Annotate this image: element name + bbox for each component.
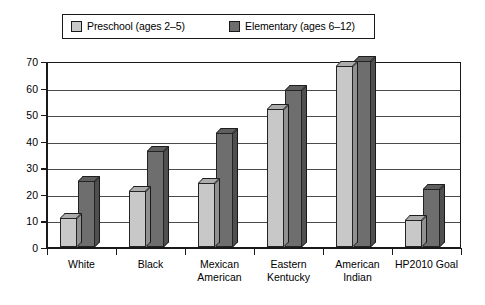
bar-face [198, 183, 215, 247]
x-axis-tick [185, 249, 186, 255]
x-axis-tick [461, 249, 462, 255]
bar-face [336, 66, 353, 247]
bar-2-1 [129, 191, 146, 247]
y-axis-tick [41, 195, 47, 196]
y-axis-tick [41, 221, 47, 222]
bar-side [302, 85, 307, 247]
legend-swatch-elementary-icon [229, 21, 240, 32]
y-axis-tick-label: 0 [12, 243, 38, 253]
bar-side [233, 128, 238, 247]
x-axis-tick [47, 249, 48, 255]
legend-swatch-preschool-icon [71, 21, 82, 32]
gridline [48, 196, 460, 197]
y-axis-tick [41, 115, 47, 116]
bar-5-1 [336, 66, 353, 247]
bar-1-1 [60, 218, 77, 247]
legend-entry-preschool: Preschool (ages 2–5) [71, 15, 185, 38]
bar-side [284, 104, 289, 247]
bar-face [405, 220, 422, 247]
bar-3-1 [198, 183, 215, 247]
gridline [48, 222, 460, 223]
chart-legend: Preschool (ages 2–5) Elementary (ages 6–… [62, 14, 375, 39]
y-axis-tick-label: 10 [12, 216, 38, 226]
y-axis-tick-label: 30 [12, 163, 38, 173]
bar-face [267, 109, 284, 247]
gridline [48, 116, 460, 117]
x-axis-tick [323, 249, 324, 255]
bar-side [95, 176, 100, 247]
y-axis-tick-label: 50 [12, 110, 38, 120]
bar-side [164, 146, 169, 247]
y-axis-tick-label: 40 [12, 137, 38, 147]
y-axis-tick [41, 142, 47, 143]
bar-side [146, 186, 151, 247]
legend-entry-elementary: Elementary (ages 6–12) [229, 15, 355, 38]
y-axis-tick-label: 60 [12, 84, 38, 94]
plot-area [47, 62, 461, 248]
bar-4-1 [267, 109, 284, 247]
legend-label-preschool: Preschool (ages 2–5) [87, 21, 185, 32]
gridline [48, 143, 460, 144]
y-axis-tick [41, 62, 47, 63]
bar-side [77, 213, 82, 247]
bar-side [371, 56, 376, 247]
bar-side [422, 215, 427, 247]
y-axis-tick-labels: 010203040506070 [8, 0, 38, 305]
x-axis-tick [254, 249, 255, 255]
x-axis-tick [116, 249, 117, 255]
bar-side [440, 184, 445, 247]
y-axis-tick-label: 20 [12, 190, 38, 200]
bar-face [60, 218, 77, 247]
gridline [48, 90, 460, 91]
bar-side [353, 61, 358, 247]
y-axis-tick [41, 89, 47, 90]
gridline [48, 169, 460, 170]
x-axis-tick [392, 249, 393, 255]
x-axis-tick-label: HP2010 Goal [382, 258, 472, 271]
y-axis-tick [41, 168, 47, 169]
legend-label-elementary: Elementary (ages 6–12) [245, 21, 355, 32]
y-axis-tick-label: 70 [12, 57, 38, 67]
bar-6-1 [405, 220, 422, 247]
bar-side [215, 178, 220, 247]
bar-face [129, 191, 146, 247]
